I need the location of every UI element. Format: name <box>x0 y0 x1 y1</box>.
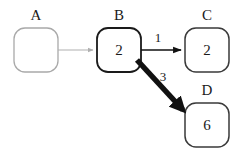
node-label-d: D <box>185 83 229 98</box>
node-value-d: 6 <box>185 118 229 133</box>
edge-b-to-d <box>137 60 183 110</box>
edge-label-b-to-c: 1 <box>150 31 166 44</box>
node-box-a[interactable] <box>14 28 58 72</box>
node-value-c: 2 <box>185 43 229 58</box>
diagram-svg <box>0 0 242 157</box>
diagram-canvas: A B C D 2 2 6 1 3 <box>0 0 242 157</box>
node-label-a: A <box>14 8 58 23</box>
node-label-b: B <box>97 8 141 23</box>
edge-label-b-to-d: 3 <box>155 70 171 83</box>
node-value-b: 2 <box>97 43 141 58</box>
node-label-c: C <box>185 8 229 23</box>
